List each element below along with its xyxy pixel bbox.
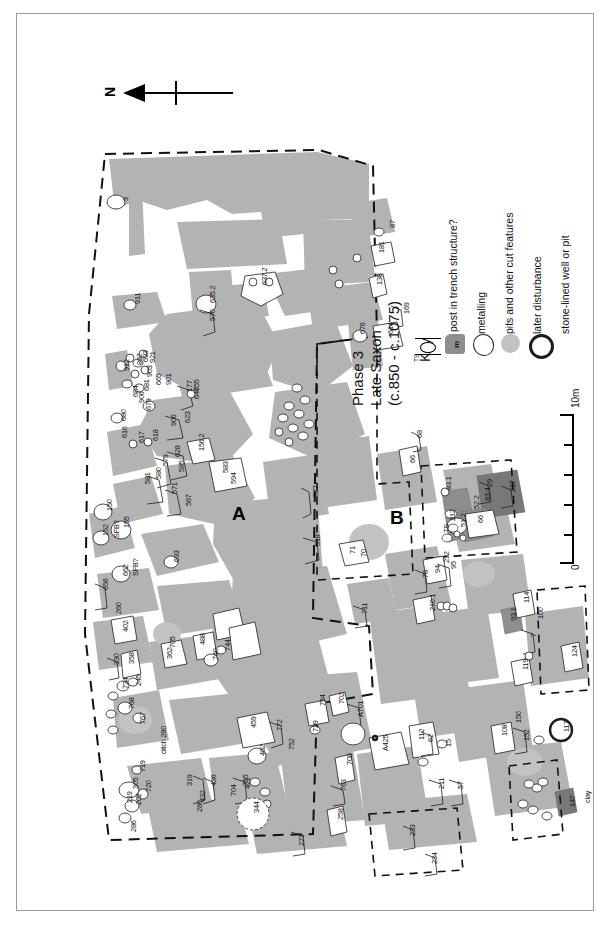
feature-label: 656 bbox=[101, 578, 110, 590]
feature-label: 594 bbox=[229, 472, 238, 484]
feature-label: 233 bbox=[408, 824, 417, 836]
feature-label: 518 bbox=[313, 534, 322, 546]
feature-label: 138 bbox=[375, 273, 384, 285]
feature-label: 862 bbox=[135, 353, 144, 365]
feature-label: 704 bbox=[229, 784, 238, 796]
feature-label: 585 bbox=[177, 460, 186, 472]
feature-label: 362 bbox=[165, 647, 174, 659]
feature-label: 567 bbox=[184, 494, 193, 506]
feature-label: 245 bbox=[134, 674, 143, 686]
feature-label: 827 bbox=[311, 485, 320, 497]
feature-label: 219 bbox=[125, 791, 134, 803]
feature-label: 93.1 bbox=[509, 607, 518, 621]
feature-label: 71 bbox=[348, 546, 357, 554]
feature-label: 212 bbox=[448, 509, 457, 521]
feature-label: 421 bbox=[243, 777, 252, 789]
feature-label: 912 bbox=[122, 359, 131, 371]
feature-label: 94 bbox=[433, 565, 442, 573]
title-line-2: Late Saxon bbox=[367, 330, 384, 406]
feature-label: 286 bbox=[129, 820, 138, 832]
metalling-symbol: m bbox=[445, 334, 465, 354]
structure-label-a: A bbox=[232, 503, 246, 525]
feature-label: 571 bbox=[170, 482, 179, 494]
key-label-later-disturbance: later disturbance bbox=[531, 256, 543, 334]
feature-label: 78 bbox=[421, 570, 430, 578]
post-in-trench-symbol: TS bbox=[415, 332, 441, 362]
key-label-pits: pits and other cut features bbox=[503, 213, 515, 334]
feature-label: 719 bbox=[138, 760, 147, 772]
feature-label: 720 bbox=[144, 780, 153, 792]
feature-label: 679 bbox=[144, 398, 153, 410]
feature-label: 901 bbox=[164, 373, 173, 385]
feature-label: 112 bbox=[417, 729, 426, 740]
feature-label: 655 bbox=[192, 379, 201, 391]
feature-label: 616 bbox=[120, 426, 129, 438]
feature-label: 436 bbox=[209, 774, 218, 786]
feature-label: 662 bbox=[121, 564, 130, 576]
structure-label-b: B bbox=[390, 507, 404, 529]
feature-label: 618 bbox=[151, 429, 160, 441]
key-label-stone-lined-well: stone-lined well or pit bbox=[559, 235, 571, 334]
feature-label: 51.2 bbox=[459, 513, 468, 527]
feature-label: 66 bbox=[476, 515, 485, 523]
feature-label: 693 bbox=[172, 550, 181, 562]
feature-label: A425 bbox=[381, 735, 390, 751]
feature-label: 152 bbox=[522, 729, 531, 741]
feature-label: 344 bbox=[252, 801, 261, 813]
scale-label-min: 0 bbox=[570, 564, 581, 570]
feature-label: 147 bbox=[568, 795, 577, 807]
feature-label: 100 bbox=[536, 607, 545, 619]
title-line-3: (c.850 - c.1075) bbox=[385, 301, 402, 406]
ts-sublabel: TS bbox=[413, 354, 420, 362]
feature-label: 680 bbox=[119, 409, 128, 421]
feature-label: 150 bbox=[105, 499, 114, 511]
feature-label: 68 bbox=[415, 430, 424, 438]
feature-label: 95 bbox=[449, 561, 458, 569]
figure-frame: N .dep{fill:#b3b3b3;stroke:none;} .dep2{… bbox=[16, 13, 594, 911]
feature-label: 358 bbox=[127, 652, 136, 664]
feature-label: 617 bbox=[137, 431, 146, 443]
feature-label: A701 bbox=[356, 701, 365, 717]
feature-label: 108 bbox=[500, 724, 509, 736]
feature-label: 155 bbox=[122, 516, 131, 528]
feature-label: 234 bbox=[430, 852, 439, 864]
feature-label: 744 bbox=[223, 639, 232, 651]
feature-label: 83.4 bbox=[483, 487, 492, 501]
feature-label: 676 bbox=[358, 322, 367, 334]
feature-label: clay bbox=[583, 791, 592, 803]
feature-label: 708 bbox=[345, 753, 354, 765]
feature-label: 740 bbox=[211, 648, 220, 660]
feature-label: 217 bbox=[508, 480, 517, 492]
feature-label: 681 bbox=[142, 379, 151, 391]
feature-label: 83.1 bbox=[444, 476, 453, 490]
feature-label: 3 bbox=[121, 197, 130, 201]
scale-bar-line bbox=[572, 414, 574, 564]
feature-label: 581 bbox=[143, 472, 152, 484]
feature-label: 734 bbox=[121, 677, 130, 689]
pit-symbol bbox=[473, 334, 494, 356]
metalling-sublabel: m bbox=[452, 341, 461, 348]
feature-label: 114 bbox=[522, 592, 531, 603]
feature-label: 202 bbox=[134, 793, 143, 805]
feature-label: TS bbox=[442, 524, 451, 533]
scale-tick bbox=[564, 444, 573, 446]
scale-tick bbox=[564, 504, 573, 506]
feature-label: 906 bbox=[169, 414, 178, 426]
feature-label: 305 bbox=[131, 777, 140, 789]
feature-label: 124 bbox=[570, 645, 579, 657]
feature-label: 70 bbox=[359, 549, 368, 557]
feature-label: 273 bbox=[297, 834, 306, 846]
feature-label: 181 bbox=[377, 241, 386, 253]
scale-bar: 10m 0 bbox=[558, 414, 588, 564]
feature-label: 462 bbox=[258, 744, 267, 756]
feature-label: 57 bbox=[456, 781, 465, 789]
title-line-1: Phase 3 bbox=[349, 351, 366, 406]
feature-label: 702 bbox=[337, 692, 346, 704]
feature-label: 635.2 bbox=[208, 286, 217, 304]
feature-label: 488 bbox=[198, 633, 207, 645]
feature-label: 911 bbox=[133, 293, 142, 304]
feature-label: 580 bbox=[154, 467, 163, 479]
feature-label: 87 bbox=[388, 220, 397, 228]
feature-label: 402 bbox=[121, 620, 130, 632]
feature-label: 15 bbox=[444, 739, 453, 747]
